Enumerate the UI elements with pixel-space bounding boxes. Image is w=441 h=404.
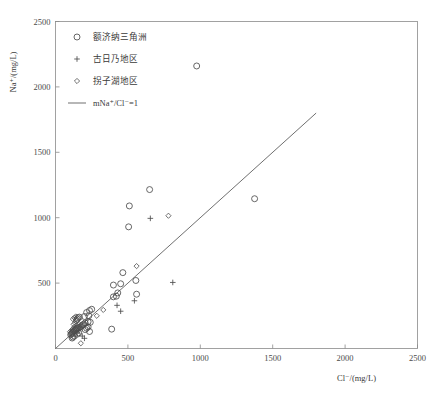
- y-tick-label: 1000: [34, 213, 51, 223]
- y-tick-label: 1500: [34, 147, 51, 157]
- data-point-circle: [118, 281, 124, 287]
- legend-item-2[interactable]: 古日乃地区: [74, 53, 138, 64]
- scatter-plot-figure: 050010001500200025005001000150020002500C…: [0, 0, 441, 404]
- x-tick-label: 1000: [192, 353, 209, 363]
- x-tick-label: 1500: [264, 353, 281, 363]
- legend-item-3[interactable]: 拐子湖地区: [74, 75, 138, 86]
- data-point-circle: [126, 203, 132, 209]
- data-point-diamond: [94, 313, 99, 318]
- data-point-diamond: [166, 213, 171, 218]
- y-axis-title: Na⁺/(mg/L): [8, 51, 18, 92]
- data-point-circle: [134, 291, 140, 297]
- data-point-circle: [110, 282, 116, 288]
- data-point-circle: [133, 277, 139, 283]
- data-point-circle: [74, 34, 80, 40]
- data-point-diamond: [74, 78, 79, 83]
- data-point-circle: [109, 326, 115, 332]
- reference-line-1to1: [56, 113, 317, 348]
- data-point-diamond: [101, 307, 106, 312]
- legend-item-4[interactable]: mNa⁺/Cl⁻=1: [68, 98, 138, 108]
- legend-label-3: 拐子湖地区: [93, 75, 138, 86]
- legend-label-1: 额济纳三角洲: [93, 31, 147, 42]
- legend: 额济纳三角洲古日乃地区拐子湖地区mNa⁺/Cl⁻=1: [68, 31, 147, 108]
- x-axis-title: Cl⁻/(mg/L): [337, 373, 376, 383]
- data-point-circle: [147, 187, 153, 193]
- x-tick-label: 2000: [337, 353, 354, 363]
- series-group-2: [74, 216, 175, 342]
- data-point-circle: [194, 63, 200, 69]
- x-tick-label: 2500: [409, 353, 426, 363]
- y-tick-label: 2500: [34, 17, 51, 27]
- y-tick-label: 2000: [34, 82, 51, 92]
- legend-label-4: mNa⁺/Cl⁻=1: [93, 98, 138, 108]
- chart-canvas: 050010001500200025005001000150020002500C…: [0, 0, 441, 404]
- data-point-circle: [252, 196, 258, 202]
- data-point-circle: [126, 224, 132, 230]
- y-tick-label: 500: [38, 278, 51, 288]
- x-tick-label: 500: [122, 353, 135, 363]
- legend-item-1[interactable]: 额济纳三角洲: [74, 31, 147, 42]
- data-point-diamond: [134, 263, 139, 268]
- data-point-circle: [120, 270, 126, 276]
- legend-label-2: 古日乃地区: [93, 53, 138, 64]
- x-tick-label: 0: [53, 353, 57, 363]
- data-point-diamond: [78, 341, 83, 346]
